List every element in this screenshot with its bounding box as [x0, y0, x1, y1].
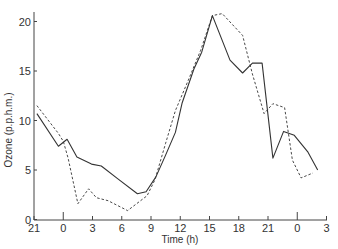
axes: [34, 12, 327, 220]
x-tick-label: 3: [89, 222, 95, 234]
x-tick-label: 9: [148, 222, 154, 234]
x-tick-label: 12: [174, 222, 186, 234]
x-tick-label: 21: [262, 222, 274, 234]
plot-lines: [37, 14, 318, 211]
x-axis-title: Time (h): [162, 234, 199, 245]
x-tick-label: 6: [119, 222, 125, 234]
x-ticks: 2103691215182103: [28, 212, 330, 234]
x-tick-label: 3: [323, 222, 329, 234]
y-tick-label: 15: [19, 65, 31, 77]
y-tick-label: 10: [19, 115, 31, 127]
ozone-time-chart: 05101520 2103691215182103 Time (h) Ozone…: [0, 0, 338, 249]
y-tick-label: 5: [25, 164, 31, 176]
series-solid-line: [37, 16, 318, 194]
x-tick-label: 0: [60, 222, 66, 234]
x-tick-label: 0: [294, 222, 300, 234]
x-tick-label: 21: [28, 222, 40, 234]
x-tick-label: 15: [203, 222, 215, 234]
y-tick-label: 20: [19, 16, 31, 28]
x-tick-label: 18: [233, 222, 245, 234]
series-dashed-line: [37, 14, 313, 211]
y-axis-title: Ozone (p.p.h.m.): [3, 92, 14, 167]
